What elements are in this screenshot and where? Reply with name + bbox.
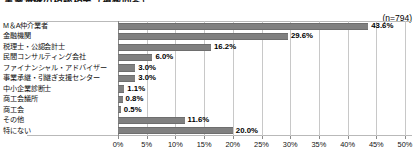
bar-row: 中小企業診断士1.1% <box>0 84 417 94</box>
x-tick-mark <box>405 136 406 139</box>
x-tick-label: 15% <box>197 140 212 149</box>
bar-value-label: 6.0% <box>155 52 173 62</box>
bar <box>118 33 288 40</box>
bar <box>118 106 121 113</box>
x-tick-mark <box>290 136 291 139</box>
bar <box>118 44 211 51</box>
x-tick-mark <box>348 136 349 139</box>
x-axis: 0%5%10%15%20%25%30%35%40%45%50% <box>118 136 405 156</box>
bar-value-label: 0.8% <box>126 94 144 104</box>
chart-title: 事業承継の相談相手（複数回答） <box>4 0 151 2</box>
x-tick-mark <box>262 136 263 139</box>
bar <box>118 117 185 124</box>
bar-value-label: 11.6% <box>188 115 210 125</box>
category-label: 商工会議所 <box>3 94 116 104</box>
bar-value-label: 0.5% <box>124 105 142 115</box>
bar-row: 特にない20.0% <box>0 126 417 136</box>
bar-row: 税理士・公認会計士16.2% <box>0 42 417 52</box>
bar-value-label: 3.0% <box>138 63 156 73</box>
bar <box>118 85 124 92</box>
category-label: 商工会 <box>3 105 116 115</box>
bar-row: その他11.6% <box>0 115 417 125</box>
x-tick-mark <box>233 136 234 139</box>
x-tick-label: 20% <box>225 140 240 149</box>
bar <box>118 64 135 71</box>
bar <box>118 54 152 61</box>
x-tick-label: 0% <box>113 140 124 149</box>
x-tick-label: 25% <box>254 140 269 149</box>
bar-row: 民間コンサルティング会社6.0% <box>0 52 417 62</box>
x-tick-mark <box>118 136 119 139</box>
bar <box>118 75 135 82</box>
category-label: 金融機関 <box>3 31 116 41</box>
x-tick-label: 30% <box>283 140 298 149</box>
x-tick-label: 5% <box>141 140 152 149</box>
category-label: ファイナンシャル・アドバイザー <box>3 63 116 73</box>
bar-value-label: 29.6% <box>291 31 313 41</box>
bar-row: 事業承継・引継ぎ支援センター3.0% <box>0 73 417 83</box>
category-label: 特にない <box>3 126 116 136</box>
bar-row: 商工会0.5% <box>0 105 417 115</box>
bar <box>118 127 233 134</box>
x-tick-mark <box>204 136 205 139</box>
bar-row: ファイナンシャル・アドバイザー3.0% <box>0 63 417 73</box>
bar-row: M＆A仲介業者43.6% <box>0 21 417 31</box>
bar-chart: 事業承継の相談相手（複数回答） (n=794) M＆A仲介業者43.6%金融機関… <box>0 0 417 157</box>
category-label: 中小企業診断士 <box>3 84 116 94</box>
category-label: 税理士・公認会計士 <box>3 42 116 52</box>
category-label: その他 <box>3 115 116 125</box>
x-tick-mark <box>319 136 320 139</box>
category-label: 事業承継・引継ぎ支援センター <box>3 73 116 83</box>
bar-value-label: 16.2% <box>214 42 236 52</box>
bar-value-label: 43.6% <box>371 21 393 31</box>
bar-value-label: 20.0% <box>236 126 258 136</box>
x-tick-mark <box>175 136 176 139</box>
category-label: 民間コンサルティング会社 <box>3 52 116 62</box>
x-tick-label: 40% <box>340 140 355 149</box>
bar <box>118 96 123 103</box>
x-tick-label: 35% <box>311 140 326 149</box>
x-tick-label: 45% <box>369 140 384 149</box>
x-tick-mark <box>376 136 377 139</box>
category-label: M＆A仲介業者 <box>3 21 116 31</box>
bar-row: 金融機関29.6% <box>0 31 417 41</box>
x-tick-label: 50% <box>398 140 413 149</box>
bar <box>118 23 368 30</box>
bar-row: 商工会議所0.8% <box>0 94 417 104</box>
bar-value-label: 3.0% <box>138 73 156 83</box>
bar-value-label: 1.1% <box>127 84 145 94</box>
x-tick-label: 10% <box>168 140 183 149</box>
x-tick-mark <box>147 136 148 139</box>
